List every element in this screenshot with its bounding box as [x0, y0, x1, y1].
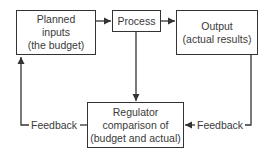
node-text: (actual results) [183, 33, 252, 46]
feedback-line-right [240, 55, 251, 125]
feedback-label-right: Feedback [195, 119, 245, 131]
node-text: Output [183, 20, 252, 33]
node-planned-inputs: Planned inputs (the budget) [16, 10, 96, 55]
node-text: (budget and actual) [90, 132, 180, 145]
node-process: Process [112, 10, 161, 32]
node-text: Regulator [90, 106, 180, 119]
node-output: Output (actual results) [176, 10, 258, 55]
node-text: (the budget) [28, 39, 85, 52]
node-regulator: Regulator comparison of (budget and actu… [87, 102, 184, 148]
feedback-label-left: Feedback [29, 119, 79, 131]
node-text: Planned [28, 13, 85, 26]
node-text: comparison of [90, 119, 180, 132]
node-text: Process [118, 15, 156, 28]
node-text: inputs [28, 26, 85, 39]
arrow-feedback-to-planned [21, 57, 30, 125]
